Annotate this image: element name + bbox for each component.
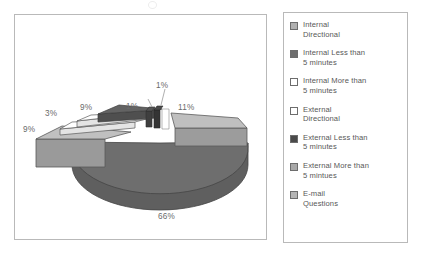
legend-swatch-icon [290, 135, 298, 143]
data-label-internal-less-5: 3% [45, 109, 57, 118]
slice-side-email-questions [175, 128, 247, 146]
pie-chart-figure: 9% 3% 9% 1% 1% 11% 66% Internal Directio… [0, 0, 422, 267]
data-label-internal-more-5: 9% [80, 103, 92, 112]
legend-item-label: Internal Less than 5 minutes [303, 48, 365, 67]
slice-side-external-directional [146, 111, 152, 127]
legend-swatch-icon [290, 107, 298, 115]
data-label-internal-directional: 9% [23, 125, 35, 134]
legend-item-label: Internal More than 5 minutes [303, 76, 366, 95]
data-label-email-questions: 11% [178, 103, 194, 112]
data-label-external-less-5: 1% [156, 81, 168, 90]
data-label-external-directional: 1% [126, 102, 138, 111]
leader-line-1pct-a [148, 99, 152, 107]
legend-item-external-more-5[interactable]: External More than 5 mintues [290, 161, 402, 180]
slice-side-internal-directional [36, 139, 105, 167]
slice-side-external-less-5 [154, 110, 160, 128]
chart-legend: Internal Directional Internal Less than … [283, 12, 408, 243]
pie-stage: 9% 3% 9% 1% 1% 11% 66% [15, 15, 268, 241]
pie-svg [15, 15, 268, 241]
legend-item-label: Internal Directional [303, 20, 340, 39]
legend-item-label: External Less than 5 minutes [303, 133, 368, 152]
legend-swatch-icon [290, 78, 298, 86]
legend-item-label: E-mail Questions [303, 189, 338, 208]
legend-item-email-questions[interactable]: E-mail Questions [290, 189, 402, 208]
legend-swatch-icon [290, 191, 298, 199]
legend-item-external-directional[interactable]: External Directional [290, 105, 402, 124]
chart-plot-area: 9% 3% 9% 1% 1% 11% 66% [14, 14, 267, 240]
legend-item-label: External Directional [303, 105, 340, 124]
legend-item-internal-directional[interactable]: Internal Directional [290, 20, 402, 39]
scan-artifact [148, 1, 157, 9]
data-label-external-more-5: 66% [158, 212, 175, 221]
legend-item-internal-less-5[interactable]: Internal Less than 5 minutes [290, 48, 402, 67]
slice-gap-wedge [162, 109, 169, 129]
legend-swatch-icon [290, 163, 298, 171]
legend-swatch-icon [290, 22, 298, 30]
legend-item-internal-more-5[interactable]: Internal More than 5 minutes [290, 76, 402, 95]
slice-top-email-questions [171, 113, 247, 128]
leader-line-1pct-b [161, 89, 165, 105]
legend-item-label: External More than 5 mintues [303, 161, 369, 180]
legend-item-external-less-5[interactable]: External Less than 5 minutes [290, 133, 402, 152]
legend-swatch-icon [290, 50, 298, 58]
